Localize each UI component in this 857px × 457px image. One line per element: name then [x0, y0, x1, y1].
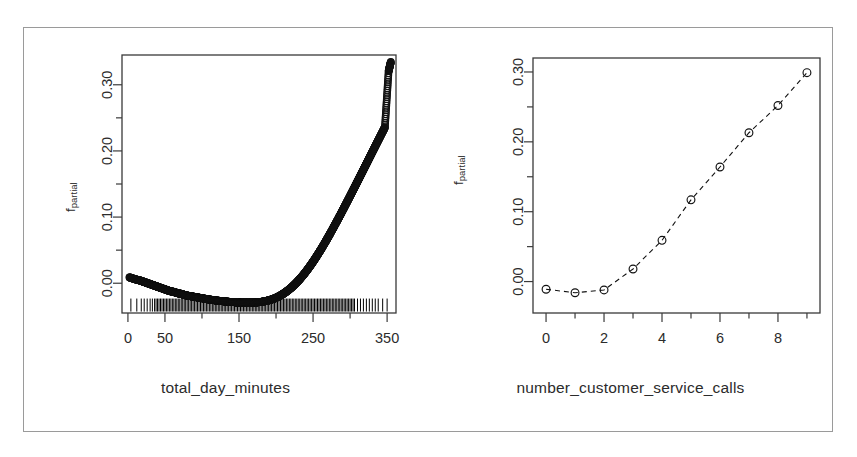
x-tick-label: 6 — [716, 330, 724, 346]
y-tick-label: 0.20 — [510, 128, 526, 156]
data-point — [803, 69, 811, 77]
x-tick-label: 4 — [658, 330, 666, 346]
data-point — [658, 236, 666, 244]
x-axis-title-number-customer-service-calls: number_customer_service_calls — [428, 379, 833, 397]
x-tick-label: 150 — [227, 330, 251, 346]
plot-frame — [533, 58, 820, 313]
y-tick-label: 0.30 — [99, 71, 115, 99]
data-points — [126, 59, 394, 306]
y-tick-label: 0.20 — [99, 137, 115, 165]
y-axis-label-right: fpartial — [451, 155, 466, 185]
data-points — [542, 69, 811, 297]
x-tick-label: 50 — [157, 330, 173, 346]
y-tick-label: 0.00 — [510, 267, 526, 295]
x-tick-label: 0 — [124, 330, 132, 346]
plot-area-number-customer-service-calls: 024680.000.100.200.30 — [428, 27, 833, 432]
panel-total-day-minutes: 0501502503500.000.100.200.30 fpartial to… — [23, 27, 428, 432]
y-axis-label-left-sub: partial — [68, 182, 79, 208]
panel-number-customer-service-calls: 024680.000.100.200.30 number_customer_se… — [428, 27, 833, 432]
plot-area-total-day-minutes: 0501502503500.000.100.200.30 — [23, 27, 428, 432]
series-dashed-line — [546, 73, 807, 293]
x-tick-label: 350 — [375, 330, 399, 346]
data-point — [774, 102, 782, 110]
y-axis-label-left: fpartial — [63, 182, 78, 212]
y-tick-label: 0.10 — [510, 198, 526, 226]
x-tick-label: 2 — [600, 330, 608, 346]
x-tick-label: 0 — [542, 330, 550, 346]
y-axis-label-right-sub: partial — [456, 155, 467, 181]
x-axis-title-total-day-minutes: total_day_minutes — [23, 379, 428, 397]
y-tick-label: 0.10 — [99, 203, 115, 231]
y-tick-label: 0.30 — [510, 58, 526, 86]
y-tick-label: 0.00 — [99, 269, 115, 297]
y-axis-label-right-main: f — [451, 181, 466, 185]
x-tick-label: 8 — [774, 330, 782, 346]
y-axis-label-left-main: f — [63, 208, 78, 212]
x-tick-label: 250 — [301, 330, 325, 346]
figure-canvas: 0501502503500.000.100.200.30 fpartial to… — [0, 0, 857, 457]
